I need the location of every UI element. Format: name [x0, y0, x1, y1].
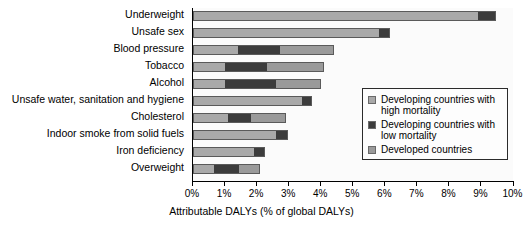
bar-segment: [239, 164, 260, 174]
bar-segment: [225, 62, 267, 72]
legend-swatch-icon-developing-high-mortality: [368, 96, 376, 104]
x-axis-tick: [480, 181, 481, 186]
legend-item-developing-low-mortality: Developing countries with low mortality: [368, 119, 502, 141]
legend-item-developing-high-mortality: Developing countries with high mortality: [368, 94, 502, 116]
x-axis-tick-label: 10%: [502, 188, 522, 199]
legend-label-developed-countries: Developed countries: [381, 144, 472, 155]
x-axis-tick-label: 7%: [409, 188, 423, 199]
x-axis-tick: [416, 181, 417, 186]
x-axis-tick-label: 6%: [377, 188, 391, 199]
bar-segment: [225, 79, 276, 89]
bar-segment: [193, 164, 214, 174]
x-axis-tick-label: 9%: [473, 188, 487, 199]
bar-segment: [478, 11, 496, 21]
x-axis-tick: [384, 181, 385, 186]
x-axis-tick: [224, 181, 225, 186]
bar-segment: [228, 113, 250, 123]
bar-segment: [254, 147, 265, 157]
category-label-unsafe-sex: Unsafe sex: [131, 26, 184, 37]
category-label-blood-pressure: Blood pressure: [113, 43, 184, 54]
bar-segment: [193, 113, 228, 123]
legend-item-developed-countries: Developed countries: [368, 144, 502, 155]
category-label-iron-deficiency: Iron deficiency: [116, 145, 184, 156]
bar-segment: [193, 45, 238, 55]
x-axis-tick-label: 3%: [281, 188, 295, 199]
x-axis-tick-label: 8%: [441, 188, 455, 199]
x-axis-tick: [192, 181, 193, 186]
category-label-unsafe-water: Unsafe water, sanitation and hygiene: [12, 94, 184, 105]
bar-segment: [193, 28, 379, 38]
bar-segment: [379, 28, 390, 38]
y-axis-category-labels: Underweight Unsafe sex Blood pressure To…: [0, 8, 189, 181]
x-axis-tick: [513, 181, 514, 186]
bar-segment: [276, 79, 321, 89]
category-label-underweight: Underweight: [125, 9, 184, 20]
x-axis-tick-label: 2%: [249, 188, 263, 199]
category-label-cholesterol: Cholesterol: [131, 111, 184, 122]
bar-segment: [193, 79, 225, 89]
bar-segment: [280, 45, 334, 55]
bar-segment: [267, 62, 325, 72]
x-axis-tick: [256, 181, 257, 186]
x-axis-tick-label: 5%: [345, 188, 359, 199]
chart-container: Underweight Unsafe sex Blood pressure To…: [0, 0, 523, 231]
category-label-indoor-smoke: Indoor smoke from solid fuels: [47, 128, 184, 139]
bar-segment: [302, 96, 312, 106]
legend-label-developing-high-mortality: Developing countries with high mortality: [381, 94, 502, 116]
x-axis-title: Attributable DALYs (% of global DALYs): [0, 205, 523, 217]
bar-segment: [193, 130, 276, 140]
bar-segment: [251, 113, 286, 123]
x-axis-tick: [320, 181, 321, 186]
bar-segment: [193, 11, 478, 21]
bar-segment: [238, 45, 280, 55]
bar-segment: [193, 62, 225, 72]
category-label-alcohol: Alcohol: [150, 77, 184, 88]
category-label-overweight: Overweight: [131, 162, 184, 173]
x-axis-tick: [448, 181, 449, 186]
bar-segment: [214, 164, 240, 174]
x-axis-tick: [288, 181, 289, 186]
bar-segment: [193, 147, 254, 157]
legend-label-developing-low-mortality: Developing countries with low mortality: [381, 119, 502, 141]
category-label-tobacco: Tobacco: [145, 60, 184, 71]
legend-swatch-icon-developing-low-mortality: [368, 121, 376, 129]
x-axis-tick-label: 0%: [185, 188, 199, 199]
x-axis-tick-label: 1%: [217, 188, 231, 199]
legend-swatch-icon-developed-countries: [368, 146, 376, 154]
bar-segment: [276, 130, 287, 140]
legend: Developing countries with high mortality…: [362, 88, 508, 160]
x-axis-tick: [352, 181, 353, 186]
bar-segment: [193, 96, 302, 106]
x-axis-tick-label: 4%: [313, 188, 327, 199]
